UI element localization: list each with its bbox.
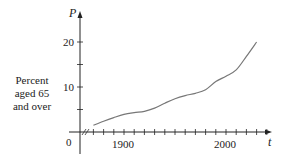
y-tick-label-10: 10 [63,81,75,93]
x-axis-arrow-icon [265,130,272,135]
y-axis-symbol: P [68,6,77,20]
y-axis-arrow-icon [78,11,83,18]
line-chart: P t 0 10 20 1900 2000 [0,0,290,164]
origin-label: 0 [66,136,72,148]
x-tick-label-1900: 1900 [112,138,135,150]
y-tick-label-20: 20 [63,36,75,48]
data-line-series [93,42,256,125]
x-axis-symbol: t [268,135,272,149]
x-tick-label-2000: 2000 [214,138,237,150]
